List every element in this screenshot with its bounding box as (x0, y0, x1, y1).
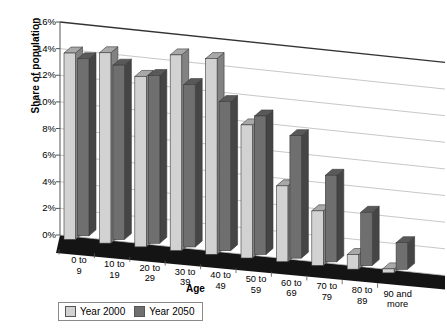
bar-year2050-4[interactable] (219, 102, 231, 251)
bar-year2000-4[interactable] (206, 59, 218, 255)
bar-year2050-9[interactable] (396, 243, 408, 270)
bar-year2050-1[interactable] (113, 65, 125, 239)
bar-year2000-2[interactable] (135, 76, 147, 246)
bar-chart: Share of population Age 0%2%4%6%8%10%12%… (0, 0, 447, 333)
bar-year2050-7[interactable] (325, 175, 337, 262)
legend-label-year-2000: Year 2000 (80, 306, 125, 317)
bar-year2050-2-side (160, 70, 167, 244)
light-gray-swatch-icon (65, 306, 76, 317)
bar-year2050-3[interactable] (184, 85, 196, 247)
bar-year2050-0[interactable] (78, 59, 90, 236)
bar-year2000-7[interactable] (312, 211, 324, 266)
bar-year2000-1[interactable] (99, 53, 111, 243)
bar-year2050-7-side (337, 169, 344, 262)
bar-year2050-5[interactable] (255, 116, 267, 254)
x-axis-category-label: 90 and more (376, 289, 420, 310)
bar-year2050-8[interactable] (361, 212, 373, 265)
bar-year2000-0[interactable] (64, 53, 76, 239)
bar-year2000-8[interactable] (347, 255, 359, 270)
bar-year2050-8-side (372, 206, 379, 265)
bar-year2050-2[interactable] (148, 76, 160, 244)
dark-gray-swatch-icon (134, 306, 145, 317)
legend-label-year-2050: Year 2050 (149, 306, 194, 317)
bar-year2000-3[interactable] (170, 55, 182, 251)
bar-year2050-0-side (89, 53, 96, 236)
bar-year2050-6[interactable] (290, 136, 302, 258)
chart-legend: Year 2000 Year 2050 (58, 302, 203, 321)
bar-year2050-1-side (124, 59, 131, 239)
bar-year2050-3-side (195, 79, 202, 247)
bar-year2000-9[interactable] (383, 269, 395, 273)
bar-year2050-5-side (266, 110, 273, 254)
bar-year2050-6-side (301, 130, 308, 258)
bar-year2000-6[interactable] (276, 186, 288, 262)
legend-item-year-2000: Year 2000 (65, 306, 125, 317)
bar-year2050-4-side (231, 96, 238, 251)
legend-item-year-2050: Year 2050 (134, 306, 194, 317)
bar-year2000-5[interactable] (241, 125, 253, 258)
